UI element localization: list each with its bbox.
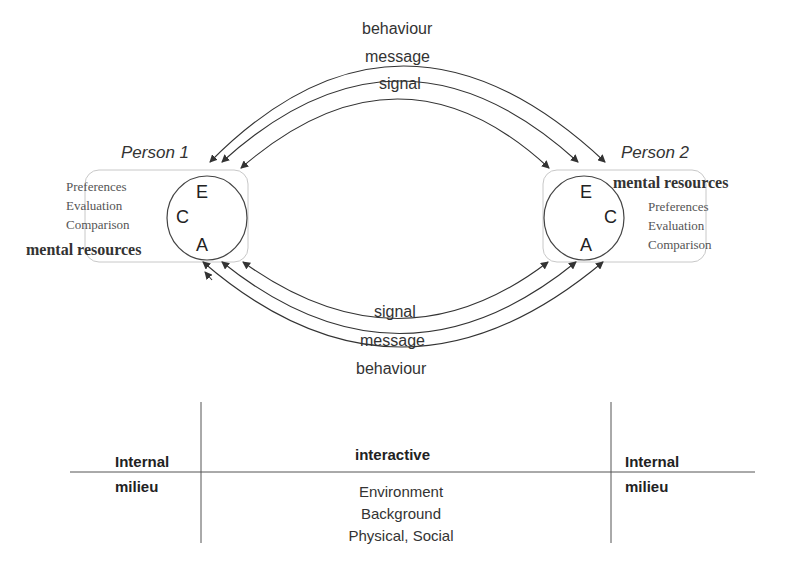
bottom-label-message: message [360, 332, 425, 350]
person1-letter-e: E [196, 182, 208, 203]
person2-letter-c: C [604, 207, 617, 228]
person1-letter-c: C [176, 207, 189, 228]
top-arc-message [222, 81, 578, 162]
right-milieu-bottom: milieu [625, 478, 668, 495]
top-label-behaviour: behaviour [362, 20, 432, 38]
person2-letter-a: A [580, 235, 592, 256]
person2-title: Person 2 [621, 143, 689, 163]
right-milieu-top: Internal [625, 453, 679, 470]
person2-item-comparison: Comparison [648, 235, 712, 254]
left-milieu-top: Internal [115, 453, 169, 470]
person2-items: Preferences Evaluation Comparison [648, 197, 712, 254]
center-line-background: Background [306, 503, 496, 525]
bottom-label-behaviour: behaviour [356, 360, 426, 378]
top-label-message: message [365, 48, 430, 66]
center-line-environment: Environment [306, 481, 496, 503]
person2-mental-resources: mental resources [613, 174, 728, 192]
person1-mental-resources: mental resources [26, 241, 141, 259]
person1-item-preferences: Preferences [66, 177, 130, 196]
center-environment-list: Environment Background Physical, Social [306, 481, 496, 547]
center-line-physical-social: Physical, Social [306, 525, 496, 547]
person1-item-comparison: Comparison [66, 215, 130, 234]
person1-items: Preferences Evaluation Comparison [66, 177, 130, 234]
bottom-label-signal: signal [374, 303, 416, 321]
bottom-arc-message [222, 262, 576, 334]
bottom-arc-extra-tick [205, 272, 212, 280]
center-interactive-label: interactive [355, 446, 430, 463]
person2-item-preferences: Preferences [648, 197, 712, 216]
person1-letter-a: A [196, 235, 208, 256]
left-milieu-bottom: milieu [115, 478, 158, 495]
top-arc-signal [241, 99, 549, 168]
top-label-signal: signal [379, 75, 421, 93]
person1-title: Person 1 [121, 143, 189, 163]
person2-letter-e: E [580, 182, 592, 203]
person2-item-evaluation: Evaluation [648, 216, 712, 235]
person1-item-evaluation: Evaluation [66, 196, 130, 215]
